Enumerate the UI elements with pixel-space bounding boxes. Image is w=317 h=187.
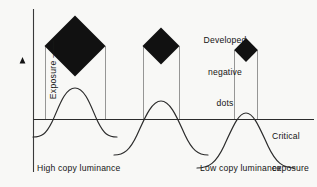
- exposure-arrow-icon: [20, 57, 26, 64]
- critical-exposure-annotation: Critical exposure: [272, 110, 317, 187]
- y-axis-label-dash: ——: [48, 40, 58, 60]
- high-copy-luminance-label: High copy luminance: [37, 163, 121, 173]
- low-copy-luminance-label: Low copy luminance: [200, 163, 281, 173]
- developed-dots-line-1: Developed: [186, 35, 264, 46]
- exposure-threshold-diagram: Exposure —— Developed negative dots Crit…: [0, 0, 317, 187]
- developed-dot-medium: [143, 28, 180, 65]
- y-axis-label-text: Exposure: [48, 61, 58, 100]
- critical-exposure-line-1: Critical: [272, 131, 317, 142]
- developed-dots-line-2: negative: [186, 67, 264, 78]
- developed-dots-line-3: dots: [186, 98, 264, 109]
- developed-dots-annotation: Developed negative dots: [186, 14, 264, 130]
- y-axis-label: Exposure ——: [38, 46, 50, 110]
